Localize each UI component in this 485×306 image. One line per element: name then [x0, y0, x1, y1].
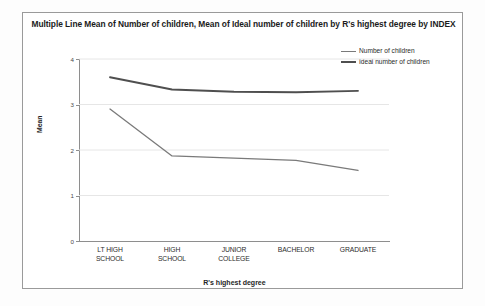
series-line — [110, 77, 358, 92]
legend-item-number-of-children: Number of children — [341, 46, 461, 56]
x-tick-label: LT HIGHSCHOOL — [77, 246, 143, 263]
y-tick-label: 4 — [58, 56, 74, 63]
x-tick-label: HIGHSCHOOL — [139, 246, 205, 263]
x-tick-label: BACHELOR — [263, 246, 329, 255]
y-axis-title: Mean — [36, 116, 43, 133]
x-tick-label: GRADUATE — [325, 246, 391, 255]
chart-container: Multiple Line Mean of Number of children… — [22, 12, 463, 289]
y-tick-label: 0 — [58, 238, 74, 245]
legend-label: Number of children — [359, 47, 415, 55]
plot-area — [79, 59, 389, 241]
y-tick-label: 1 — [58, 192, 74, 199]
x-tick-label: JUNIORCOLLEGE — [201, 246, 267, 263]
y-tick-label: 2 — [58, 147, 74, 154]
series-line — [110, 109, 358, 170]
chart-plot-svg — [79, 59, 389, 241]
x-axis-line — [79, 241, 390, 242]
x-axis-title: R's highest degree — [79, 279, 390, 286]
chart-title: Multiple Line Mean of Number of children… — [31, 19, 456, 30]
legend-line-swatch-icon — [341, 51, 356, 52]
y-tick-label: 3 — [58, 101, 74, 108]
